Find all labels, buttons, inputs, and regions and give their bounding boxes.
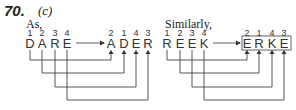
- solution-figure: 70. (c) As, 1 2 3 4 D A R E 2 1 4 3 A D …: [0, 0, 296, 110]
- result-box: [242, 36, 291, 50]
- connector-lines: [0, 0, 296, 110]
